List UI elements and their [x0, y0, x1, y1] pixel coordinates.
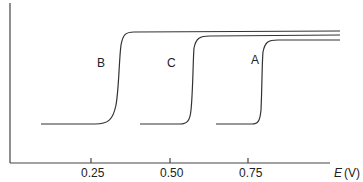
x-axis-label-unit: (V)	[344, 166, 360, 180]
curve-a	[216, 40, 340, 124]
curve-c	[140, 35, 340, 124]
chart-canvas: B C A 0.25 0.50 0.75 E (V)	[0, 0, 363, 182]
x-tick-label-0.25: 0.25	[81, 166, 105, 180]
curve-label-a: A	[251, 53, 259, 67]
curve-label-c: C	[167, 56, 176, 70]
x-tick-label-0.75: 0.75	[239, 166, 263, 180]
curve-label-b: B	[97, 56, 105, 70]
voltammogram-chart: B C A 0.25 0.50 0.75 E (V)	[0, 0, 363, 182]
x-tick-label-0.50: 0.50	[160, 166, 184, 180]
x-axis-label-var: E	[334, 166, 343, 180]
